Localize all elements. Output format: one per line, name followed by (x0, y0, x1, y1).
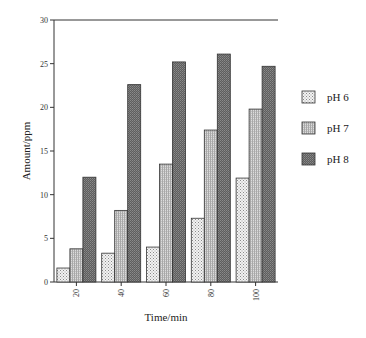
x-axis-label: Time/min (145, 311, 188, 323)
y-axis-label: Amount/ppm (20, 121, 32, 180)
x-tick-label: 60 (162, 289, 171, 297)
x-tick-label: 20 (72, 289, 81, 297)
bar-ph-6-60 (147, 247, 160, 282)
bar-ph-6-40 (102, 253, 115, 282)
bar-ph-6-100 (236, 178, 249, 282)
x-axis: 20406080100 (72, 282, 260, 301)
legend: pH 6pH 7pH 8 (302, 91, 349, 165)
bar-ph-7-40 (115, 210, 128, 282)
legend-swatch-ph-7 (302, 122, 315, 134)
y-tick-label: 10 (40, 191, 48, 200)
y-tick-label: 30 (40, 16, 48, 25)
bar-ph-6-80 (191, 218, 204, 282)
y-tick-label: 20 (40, 103, 48, 112)
bar-ph-8-100 (262, 66, 275, 282)
legend-swatch-ph-8 (302, 153, 315, 165)
legend-label: pH 7 (327, 122, 349, 134)
y-tick-label: 25 (40, 60, 48, 69)
bar-ph-7-20 (70, 249, 83, 282)
y-tick-label: 5 (44, 234, 48, 243)
bar-ph-7-60 (160, 164, 173, 282)
legend-swatch-ph-6 (302, 91, 315, 103)
bar-ph-8-60 (173, 62, 186, 282)
bar-ph-8-40 (128, 85, 141, 282)
bar-ph-7-100 (249, 109, 262, 282)
bar-ph-8-20 (83, 177, 96, 282)
x-tick-label: 40 (117, 289, 126, 297)
bars (57, 54, 275, 282)
legend-label: pH 8 (327, 153, 349, 165)
bar-ph-7-80 (204, 130, 217, 282)
bar-chart: 051015202530 20406080100 pH 6pH 7pH 8 Am… (0, 0, 366, 338)
x-tick-label: 100 (252, 289, 261, 301)
bar-ph-8-80 (217, 54, 230, 282)
y-axis: 051015202530 (40, 16, 54, 287)
y-tick-label: 15 (40, 147, 48, 156)
bar-ph-6-20 (57, 268, 70, 282)
y-tick-label: 0 (44, 278, 48, 287)
x-tick-label: 80 (207, 289, 216, 297)
legend-label: pH 6 (327, 91, 349, 103)
